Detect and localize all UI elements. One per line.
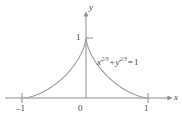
equation-annotation: x2/3+y2/3=1 (97, 56, 138, 67)
equation-equals-sign: = (127, 57, 134, 67)
plot-canvas (0, 0, 182, 122)
x-axis-label: x (174, 93, 178, 102)
x-tick-label-one: 1 (144, 104, 149, 113)
astroid-figure: y x –1 0 1 1 x2/3+y2/3=1 (0, 0, 182, 122)
equation-right-hand-side: 1 (134, 57, 139, 67)
y-tick-label-one: 1 (76, 33, 81, 42)
origin-label: 0 (78, 104, 83, 113)
equation-exponent-y: 2/3 (119, 56, 126, 62)
x-tick-label-negative-one: –1 (16, 104, 25, 113)
y-axis-label: y (89, 3, 93, 12)
